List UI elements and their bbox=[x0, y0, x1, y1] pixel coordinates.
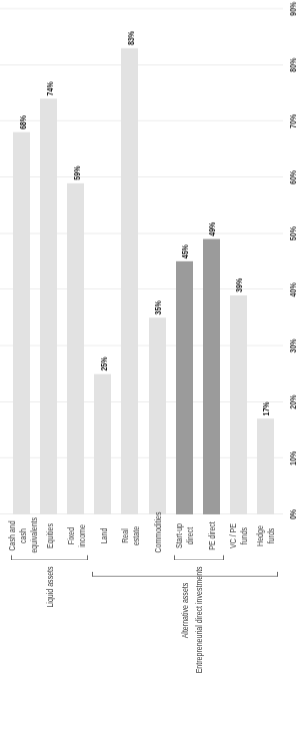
bar-value-label: 83% bbox=[124, 31, 135, 45]
bar-value-label: 45% bbox=[179, 245, 190, 259]
bar-value-label: 25% bbox=[97, 357, 108, 371]
category-label: Cash and cash equivalents bbox=[5, 519, 38, 553]
bar bbox=[94, 374, 111, 514]
category-label: Fixed income bbox=[65, 519, 87, 553]
category-label: Start-up direct bbox=[173, 519, 195, 553]
gridline bbox=[0, 8, 283, 9]
group-bracket-label: Liquid assets bbox=[43, 566, 54, 607]
bar-value-label: 35% bbox=[152, 301, 163, 315]
chart-rotated-canvas: 0%10%20%30%40%50%60%70%80%90%68%Cash and… bbox=[0, 0, 297, 745]
bar-chart-plot-area: 0%10%20%30%40%50%60%70%80%90%68%Cash and… bbox=[0, 0, 297, 553]
axis-tick-label: 10% bbox=[287, 451, 297, 465]
axis-tick-label: 90% bbox=[287, 2, 297, 16]
category-label: Hedge furds bbox=[254, 519, 276, 553]
bar bbox=[230, 295, 247, 514]
bar-value-label: 59% bbox=[70, 166, 81, 180]
bar-value-label: 68% bbox=[16, 115, 27, 129]
category-label: VC / PE funds bbox=[227, 519, 249, 553]
bar-value-label: 49% bbox=[206, 222, 217, 236]
group-bracket-label: Entrepreneurial direct investments bbox=[192, 566, 203, 673]
category-label: Real estate bbox=[119, 519, 141, 553]
gridline bbox=[0, 64, 283, 65]
group-bracket bbox=[11, 555, 88, 560]
bar bbox=[203, 239, 220, 514]
bar-value-label: 17% bbox=[260, 402, 271, 416]
group-bracket bbox=[174, 555, 224, 560]
axis-tick-label: 80% bbox=[287, 58, 297, 72]
group-bracket-label: Alternative assets bbox=[179, 583, 190, 639]
category-label: PE direct bbox=[206, 519, 217, 553]
bar bbox=[149, 318, 166, 515]
bar bbox=[67, 183, 84, 514]
bar bbox=[40, 99, 57, 515]
bar bbox=[176, 262, 193, 515]
axis-tick-label: 50% bbox=[287, 227, 297, 241]
axis-tick-label: 70% bbox=[287, 114, 297, 128]
axis-tick-label: 60% bbox=[287, 170, 297, 184]
axis-tick-label: 40% bbox=[287, 283, 297, 297]
bar bbox=[13, 132, 30, 514]
category-label: Commodities bbox=[152, 519, 163, 553]
axis-tick-label: 20% bbox=[287, 395, 297, 409]
bar-value-label: 74% bbox=[43, 82, 54, 96]
axis-tick-label: 30% bbox=[287, 339, 297, 353]
category-label: Land bbox=[97, 519, 108, 553]
category-label: Equities bbox=[43, 519, 54, 553]
group-bracket bbox=[92, 572, 278, 577]
bar-value-label: 39% bbox=[233, 278, 244, 292]
bar bbox=[121, 48, 138, 514]
bar bbox=[257, 419, 274, 514]
axis-tick-label: 0% bbox=[287, 509, 297, 519]
